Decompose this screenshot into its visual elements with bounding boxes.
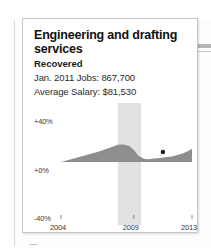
x-axis-label-2009: 2009 — [123, 223, 139, 232]
y-axis-label-zero: +0% — [34, 166, 49, 175]
data-point-marker — [161, 150, 165, 154]
y-axis-label-top: +40% — [34, 117, 53, 126]
status-badge: Recovered — [34, 58, 83, 69]
jobs-stat: Jan. 2011 Jobs: 867,700 — [34, 72, 135, 83]
recession-band — [118, 103, 141, 225]
x-axis-label-2004: 2004 — [50, 223, 66, 232]
info-card: Engineering and drafting services Recove… — [22, 18, 198, 233]
screenshot-root: Engineering and drafting services Recove… — [0, 0, 211, 250]
salary-stat: Average Salary: $81,530 — [34, 86, 136, 97]
background-headline-fragment — [198, 44, 211, 48]
page-title: Engineering and drafting services — [34, 28, 186, 56]
x-axis-label-2013: 2013 — [181, 223, 197, 232]
area-chart: +40% +0% -40% 2004 2009 2013 — [23, 103, 199, 233]
series-area — [61, 145, 192, 162]
y-axis-label-bottom: -40% — [34, 214, 51, 223]
